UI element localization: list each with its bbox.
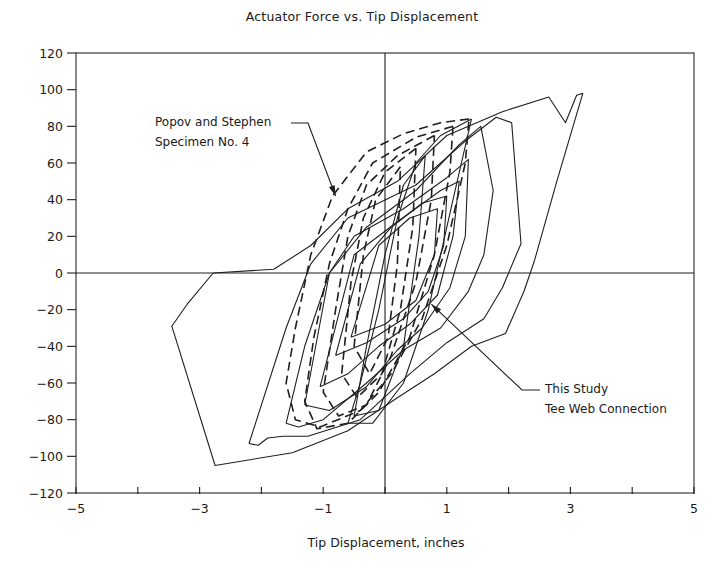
hysteresis-loop <box>323 136 434 417</box>
y-tick-label: 120 <box>39 46 63 61</box>
y-tick-label: 80 <box>47 119 63 134</box>
y-tick-label: −120 <box>29 486 63 501</box>
axes: 120100806040200−20−40−60−80−100−120−5−3−… <box>29 46 698 517</box>
y-tick-label: 40 <box>47 192 63 207</box>
annotation-popov-leader <box>291 123 336 196</box>
y-tick-label: 0 <box>55 266 63 281</box>
y-tick-label: −60 <box>37 376 63 391</box>
hysteresis-loop <box>320 181 459 386</box>
chart-title: Actuator Force vs. Tip Displacement <box>0 9 724 24</box>
y-tick-label: 20 <box>47 229 63 244</box>
annotation-study: This Study Tee Web Connection <box>545 379 667 419</box>
x-tick-label: 3 <box>566 501 574 516</box>
series-popov-dashed <box>286 119 469 429</box>
x-tick-label: −5 <box>67 501 85 516</box>
x-tick-label: 1 <box>443 501 451 516</box>
hysteresis-chart: 120100806040200−20−40−60−80−100−120−5−3−… <box>0 0 724 571</box>
annotation-popov-line1: Popov and Stephen <box>155 112 271 132</box>
y-tick-label: 60 <box>47 156 63 171</box>
annotation-study-line1: This Study <box>545 379 667 399</box>
annotation-popov: Popov and Stephen Specimen No. 4 <box>155 112 271 152</box>
x-axis-label: Tip Displacement, inches <box>0 535 724 550</box>
y-tick-label: 100 <box>39 82 63 97</box>
annotation-study-leader <box>431 304 540 390</box>
y-tick-label: −100 <box>29 449 63 464</box>
y-tick-label: −80 <box>37 412 63 427</box>
x-tick-label: −3 <box>190 501 208 516</box>
y-tick-label: −20 <box>37 302 63 317</box>
hysteresis-loop <box>348 119 472 423</box>
annotation-popov-line2: Specimen No. 4 <box>155 132 271 152</box>
x-tick-label: −1 <box>314 501 332 516</box>
y-tick-label: −40 <box>37 339 63 354</box>
x-tick-label: 5 <box>690 501 698 516</box>
arrowhead-icon <box>329 185 336 196</box>
annotation-study-line2: Tee Web Connection <box>545 399 667 419</box>
